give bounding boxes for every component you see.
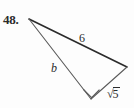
geometry-figure: 48. 6 b √5 [0, 0, 134, 108]
radicand-value: 5 [113, 87, 120, 101]
side-label-top: 6 [79, 32, 85, 44]
side-label-left: b [51, 62, 57, 74]
problem-number: 48. [3, 13, 19, 26]
triangle-side-top [29, 19, 127, 67]
radical-group: √5 [107, 87, 120, 101]
side-label-right: √5 [107, 87, 120, 101]
